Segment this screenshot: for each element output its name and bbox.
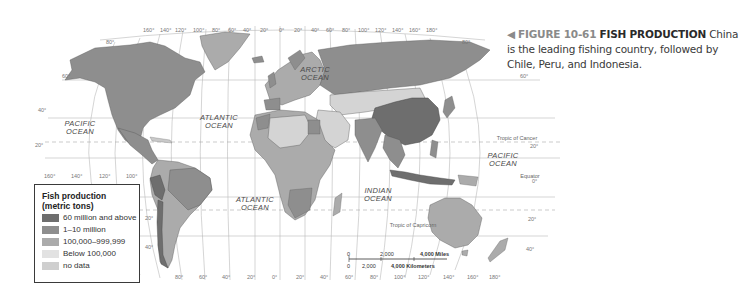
figure-title: FISH PRODUCTION (599, 28, 706, 40)
svg-text:160°: 160° (409, 27, 420, 33)
legend-label: 60 million and above (63, 213, 136, 222)
legend-swatch (42, 262, 59, 270)
svg-text:80°: 80° (462, 39, 470, 45)
legend-swatch (42, 250, 59, 258)
svg-text:20°: 20° (530, 143, 538, 149)
svg-text:160°: 160° (44, 173, 55, 179)
legend-swatch (42, 214, 59, 222)
legend-title: Fish production (42, 191, 133, 201)
figure-number: FIGURE 10-61 (518, 28, 596, 40)
svg-text:120°: 120° (375, 27, 386, 33)
svg-text:100°: 100° (394, 274, 405, 280)
svg-text:20°: 20° (247, 274, 255, 280)
svg-text:100°: 100° (193, 27, 204, 33)
svg-text:160°: 160° (467, 274, 478, 280)
ocean-label-pacific-west-2: OCEAN (66, 127, 94, 136)
svg-text:80°: 80° (342, 27, 350, 33)
legend-label: Below 100,000 (63, 249, 116, 258)
philippines (430, 140, 438, 158)
svg-text:120°: 120° (418, 274, 429, 280)
svg-text:60°: 60° (62, 73, 70, 79)
figure-caption: ◀ FIGURE 10-61 FISH PRODUCTION China is … (507, 27, 745, 72)
ocean-label-atlantic-north-2: OCEAN (205, 121, 233, 130)
svg-text:80°: 80° (370, 274, 378, 280)
legend-item: Below 100,000 (42, 248, 133, 259)
svg-text:40°: 40° (222, 274, 230, 280)
svg-text:20°: 20° (294, 27, 302, 33)
iceland (252, 56, 264, 63)
svg-text:100°: 100° (358, 27, 369, 33)
new-zealand (488, 238, 508, 262)
ocean-label-pacific-east-2: OCEAN (489, 159, 517, 168)
legend-item: 1–10 million (42, 224, 133, 235)
greenland (200, 32, 250, 70)
svg-text:40°: 40° (526, 246, 534, 252)
svg-text:60°: 60° (520, 73, 528, 79)
tropic-of-cancer-label: Tropic of Cancer (497, 135, 538, 141)
svg-text:120°: 120° (99, 173, 110, 179)
svg-text:4,000 Kilometers: 4,000 Kilometers (391, 263, 435, 269)
legend-subtitle: (metric tons) (42, 201, 133, 211)
svg-text:20°: 20° (145, 215, 153, 221)
svg-text:80°: 80° (212, 27, 220, 33)
ocean-label-arctic-2: OCEAN (301, 73, 329, 82)
svg-text:60°: 60° (326, 27, 334, 33)
india (355, 118, 382, 162)
bottom-longitude-labels: 80° 60° 40° 20° 0° 20° 40° 60° 80° 100° … (175, 274, 500, 280)
svg-text:2,000: 2,000 (380, 251, 394, 257)
indonesia (390, 170, 455, 185)
legend-item: no data (42, 260, 133, 271)
scale-bar: 0 2,000 4,000 Miles 0 2,000 4,000 Kilome… (347, 251, 449, 269)
svg-text:2,000: 2,000 (362, 263, 376, 269)
svg-text:180°: 180° (426, 27, 437, 33)
svg-text:60°: 60° (199, 274, 207, 280)
tropic-of-capricorn-label: Tropic of Capricorn (390, 222, 437, 228)
svg-text:20°: 20° (35, 142, 43, 148)
legend-item: 60 million and above (42, 212, 133, 223)
madagascar (333, 193, 342, 216)
svg-text:0°: 0° (272, 274, 277, 280)
ocean-label-atlantic-south-2: OCEAN (241, 203, 269, 212)
svg-text:160°: 160° (143, 27, 154, 33)
papua (458, 175, 478, 186)
legend-swatch (42, 238, 59, 246)
legend-item: 100,000–999,999 (42, 236, 133, 247)
svg-text:80°: 80° (175, 274, 183, 280)
ocean-label-indian-2: OCEAN (364, 194, 392, 203)
svg-text:20°: 20° (296, 274, 304, 280)
tasmania (462, 250, 468, 256)
svg-text:100°: 100° (126, 173, 137, 179)
legend-swatch (42, 226, 59, 234)
svg-text:0: 0 (347, 251, 350, 257)
svg-text:40°: 40° (320, 274, 328, 280)
svg-text:140°: 140° (160, 27, 171, 33)
svg-text:0°: 0° (532, 178, 537, 184)
svg-text:80°: 80° (106, 39, 114, 45)
svg-text:0°: 0° (279, 27, 284, 33)
svg-text:180°: 180° (489, 274, 500, 280)
legend-label: 1–10 million (63, 225, 106, 234)
svg-text:4,000 Miles: 4,000 Miles (420, 251, 449, 257)
svg-text:40°: 40° (38, 107, 46, 113)
egypt (308, 120, 320, 134)
map-legend: Fish production (metric tons) 60 million… (34, 184, 140, 283)
spain (264, 98, 280, 110)
svg-text:40°: 40° (311, 27, 319, 33)
svg-text:140°: 140° (71, 173, 82, 179)
russia (318, 40, 490, 95)
legend-label: no data (63, 261, 90, 270)
svg-text:20°: 20° (260, 27, 268, 33)
svg-text:40°: 40° (145, 244, 153, 250)
svg-text:20°: 20° (528, 216, 536, 222)
figure-arrow-icon: ◀ (507, 28, 515, 40)
svg-text:60°: 60° (228, 27, 236, 33)
japan (443, 96, 455, 118)
svg-text:140°: 140° (443, 274, 454, 280)
svg-text:0: 0 (347, 263, 350, 269)
svg-text:60°: 60° (345, 274, 353, 280)
svg-text:140°: 140° (392, 27, 403, 33)
legend-label: 100,000–999,999 (63, 237, 125, 246)
svg-text:120°: 120° (175, 27, 186, 33)
svg-text:40°: 40° (243, 27, 251, 33)
